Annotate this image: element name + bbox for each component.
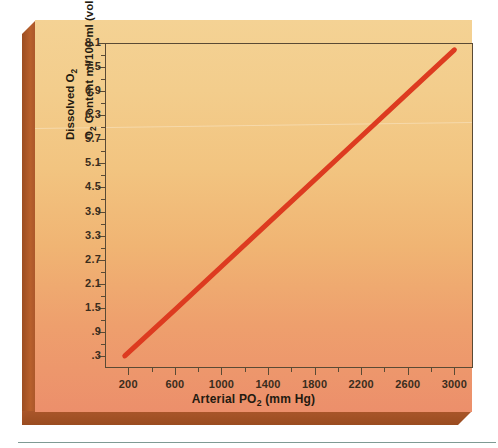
x-tick-label: 1400 xyxy=(246,378,290,390)
x-axis-title: Arterial PO2 (mm Hg) xyxy=(35,392,472,408)
x-tick-major xyxy=(315,368,316,375)
x-tick-major xyxy=(221,368,222,375)
y-axis-title-line1: Dissolved O2 xyxy=(64,69,76,140)
y-tick-label: 2.1 xyxy=(67,277,101,289)
x-tick-label: 1000 xyxy=(199,378,243,390)
x-tick-minor xyxy=(431,368,432,372)
y-tick-label: .9 xyxy=(67,325,101,337)
card-bevel-left xyxy=(22,20,36,425)
x-tick-label: 2600 xyxy=(386,378,430,390)
y-tick-label: 3.3 xyxy=(67,229,101,241)
y-tick-label: 7.5 xyxy=(67,60,101,72)
y-tick-label: 5.7 xyxy=(67,132,101,144)
y-tick-label: 6.9 xyxy=(67,84,101,96)
figure-card: Dissolved O2 O2 Content ml/100 ml (vol.%… xyxy=(22,20,472,425)
y-tick-label: 2.7 xyxy=(67,253,101,265)
x-tick-label: 200 xyxy=(106,378,150,390)
series-line-dissolved-o2 xyxy=(125,50,455,356)
y-tick-label: 4.5 xyxy=(67,180,101,192)
x-tick-minor xyxy=(384,368,385,372)
y-tick-label: 5.1 xyxy=(67,156,101,168)
x-tick-major xyxy=(408,368,409,375)
x-tick-label: 2200 xyxy=(339,378,383,390)
y-tick-label: 8.1 xyxy=(67,36,101,48)
x-tick-minor xyxy=(198,368,199,372)
x-tick-label: 1800 xyxy=(293,378,337,390)
y-tick-label: .3 xyxy=(67,349,101,361)
y-tick-label: 3.9 xyxy=(67,205,101,217)
page-bottom-rule xyxy=(18,442,496,443)
x-tick-minor xyxy=(152,368,153,372)
x-tick-major xyxy=(454,368,455,375)
x-tick-minor xyxy=(245,368,246,372)
y-tick-label: 1.5 xyxy=(67,301,101,313)
data-series-line xyxy=(105,43,473,368)
card-bevel-bottom xyxy=(22,411,472,425)
x-tick-label: 3000 xyxy=(432,378,476,390)
x-tick-minor xyxy=(291,368,292,372)
y-tick-label: 6.3 xyxy=(67,108,101,120)
x-tick-major xyxy=(175,368,176,375)
chart-canvas: Dissolved O2 O2 Content ml/100 ml (vol.%… xyxy=(35,20,472,412)
x-tick-label: 600 xyxy=(153,378,197,390)
x-tick-minor xyxy=(338,368,339,372)
plot-area: .3.91.52.12.73.33.94.55.15.76.36.97.58.1… xyxy=(105,43,473,368)
x-tick-major xyxy=(128,368,129,375)
x-tick-major xyxy=(268,368,269,375)
x-tick-major xyxy=(361,368,362,375)
